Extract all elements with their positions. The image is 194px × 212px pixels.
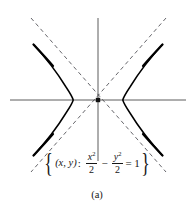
hyperbola-figure: { (x, y) : x2 2 − y2 2 = 1 } (a)	[0, 0, 194, 212]
left-branch-upper-accent	[34, 45, 54, 67]
left-branch-lower-accent	[34, 134, 54, 156]
hyperbola-plot	[0, 0, 194, 212]
right-branch-upper-accent	[143, 45, 163, 67]
origin-marker	[96, 98, 100, 102]
right-branch-lower-accent	[143, 134, 163, 156]
